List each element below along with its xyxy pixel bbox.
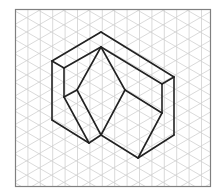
grid-line-diagonal: [5, 77, 221, 194]
grid-line-diagonal: [5, 0, 221, 59]
grid-line-diagonal: [5, 192, 221, 194]
grid-line-diagonal: [5, 177, 221, 194]
grid-line-diagonal: [5, 0, 221, 16]
grid-line-diagonal: [5, 0, 221, 116]
solid-inner-edge: [64, 90, 77, 97]
grid-line-diagonal: [5, 0, 221, 2]
grid-line-diagonal: [5, 0, 221, 15]
grid-line-diagonal: [5, 0, 221, 116]
solid-outline-edge: [89, 135, 101, 143]
grid-line-diagonal: [5, 106, 221, 194]
grid-line-diagonal: [5, 0, 221, 87]
grid-line-diagonal: [5, 0, 221, 102]
solid-inner-edge: [52, 61, 64, 68]
grid-line-diagonal: [5, 0, 221, 87]
grid-line-diagonal: [5, 148, 221, 194]
solid-inner-edge: [162, 77, 174, 84]
grid-line-diagonal: [5, 105, 221, 194]
grid-line-diagonal: [5, 149, 221, 194]
grid-line-diagonal: [5, 177, 221, 194]
isometric-grid: [5, 0, 221, 194]
grid-line-diagonal: [5, 77, 221, 194]
isometric-drawing-canvas: [0, 0, 224, 194]
grid-line-diagonal: [5, 0, 221, 101]
grid-line-diagonal: [5, 135, 221, 194]
grid-line-diagonal: [5, 0, 221, 1]
isometric-figure: [0, 0, 224, 194]
grid-line-diagonal: [5, 0, 221, 44]
solid-outline-edge: [101, 135, 138, 158]
grid-line-diagonal: [5, 191, 221, 194]
grid-line-diagonal: [5, 0, 221, 58]
